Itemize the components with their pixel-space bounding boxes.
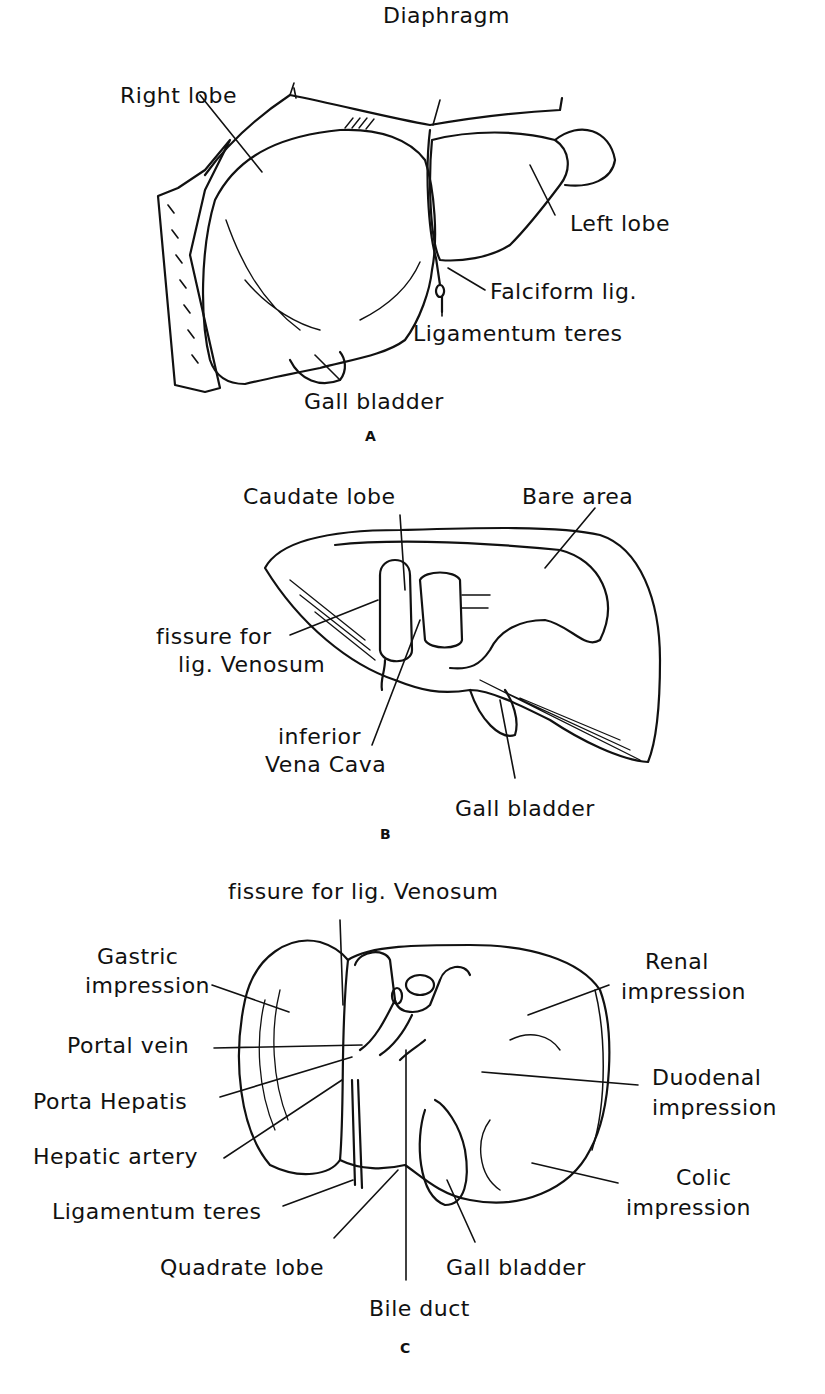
label-left-lobe: Left lobe (570, 212, 670, 236)
label-fissure-lig-venosum-c: fissure for lig. Venosum (228, 880, 498, 904)
label-porta-hepatis: Porta Hepatis (33, 1090, 187, 1114)
porta-hepatis-vessels (360, 1000, 425, 1060)
ivc-shape (420, 573, 462, 648)
label-quadrate-lobe: Quadrate lobe (160, 1256, 324, 1280)
label-gastric-impression: impression (85, 974, 210, 998)
panel-letter-a: A (365, 428, 376, 444)
label-renal: Renal (645, 950, 709, 974)
label-renal-impression: impression (621, 980, 746, 1004)
label-inferior: inferior (278, 725, 361, 749)
label-right-lobe-a: Right lobe (120, 84, 237, 108)
gall-bladder-b (470, 690, 517, 736)
label-duodenal-impression: impression (652, 1096, 777, 1120)
label-lig-venosum-b: lig. Venosum (178, 653, 325, 677)
label-ligamentum-teres-a: Ligamentum teres (413, 322, 622, 346)
panel-c-right-lobe (340, 945, 609, 1203)
label-fissure-for: fissure for (156, 625, 272, 649)
label-colic: Colic (676, 1166, 732, 1190)
label-portal-vein: Portal vein (67, 1034, 189, 1058)
panel-letter-c: C (400, 1340, 410, 1356)
caudate-lobe-shape (380, 560, 412, 661)
ivc-opening (406, 975, 434, 995)
abdominal-wall-strip (158, 140, 230, 392)
label-caudate-lobe: Caudate lobe (243, 485, 395, 509)
label-ligamentum-teres-c: Ligamentum teres (52, 1200, 261, 1224)
panel-letter-b: B (380, 826, 391, 842)
label-bile-duct: Bile duct (369, 1297, 470, 1321)
label-gall-bladder-a: Gall bladder (304, 390, 444, 414)
panel-c-drawing (239, 941, 609, 1205)
label-duodenal: Duodenal (652, 1066, 761, 1090)
label-gastric: Gastric (97, 945, 178, 969)
panel-c-left-lobe (239, 941, 348, 1174)
label-bare-area: Bare area (522, 485, 633, 509)
label-colic-impression: impression (626, 1196, 751, 1220)
label-falciform-lig: Falciform lig. (490, 280, 637, 304)
left-lobe-outline (430, 133, 568, 261)
label-gall-bladder-b: Gall bladder (455, 797, 595, 821)
label-diaphragm: Diaphragm (383, 4, 510, 28)
label-vena-cava: Vena Cava (265, 753, 386, 777)
label-gall-bladder-c: Gall bladder (446, 1256, 586, 1280)
right-lobe-outline (203, 130, 435, 384)
gall-bladder-c (420, 1100, 467, 1205)
label-hepatic-artery: Hepatic artery (33, 1145, 198, 1169)
